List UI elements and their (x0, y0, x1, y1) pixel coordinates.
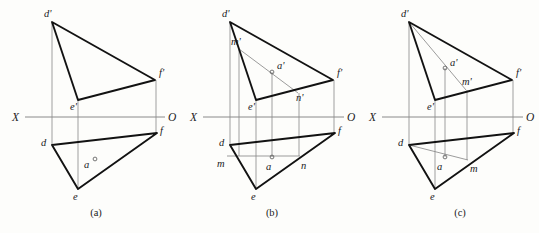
aux-point-label-mp-b: m' (231, 36, 242, 47)
panel-caption-c: (c) (454, 207, 466, 219)
vertex-label-ep-a: e' (70, 101, 78, 112)
vertex-label-ep-b: e' (248, 101, 256, 112)
axis-label-o-b: O (347, 111, 356, 123)
panel-caption-a: (a) (90, 207, 102, 219)
render-layer: XOad'f'e'dfe(a)XOa'am'n'mnd'f'e'dfe(b)XO… (11, 8, 535, 219)
vertex-label-e-a: e (73, 191, 78, 202)
point-a-top-label-a: a (84, 159, 89, 170)
aux-point-label-mp-c: m' (462, 76, 473, 87)
axis-label-x-b: X (189, 111, 198, 123)
aux-line-c-dm-top (409, 145, 468, 160)
vertex-label-fp-b: f' (337, 67, 343, 78)
vertex-label-fp-a: f' (159, 67, 165, 78)
panel-c: XOa'am'md'f'e'dfe(c) (368, 8, 535, 219)
point-a-top-marker-a (93, 157, 97, 161)
vertex-label-dp-a: d' (44, 8, 52, 19)
axis-label-x-c: X (368, 111, 377, 123)
axis-label-o-c: O (526, 111, 535, 123)
vertex-label-f-a: f (160, 125, 165, 136)
aux-point-label-n-b: n (301, 160, 306, 171)
vertex-label-d-a: d (41, 137, 47, 148)
triangle-front-a (52, 22, 155, 100)
panel-a: XOad'f'e'dfe(a) (11, 8, 177, 219)
aux-line-c-dm-front (409, 22, 466, 90)
panel-caption-b: (b) (266, 207, 279, 219)
axis-label-o-a: O (168, 111, 177, 123)
aux-point-label-np-b: n' (296, 92, 304, 103)
panel-b: XOa'am'n'mnd'f'e'dfe(b) (189, 8, 356, 219)
point-a-front-label-c: a' (450, 57, 458, 68)
vertex-label-dp-c: d' (401, 8, 409, 19)
triangle-top-b (230, 133, 335, 189)
triangle-top-a (52, 133, 157, 189)
point-a-front-label-b: a' (277, 60, 285, 71)
triangle-front-c (409, 22, 512, 100)
vertex-label-f-c: f (517, 125, 522, 136)
aux-point-label-m-b: m (217, 158, 225, 169)
point-a-top-label-c: a (437, 161, 442, 172)
vertex-label-f-b: f (338, 125, 343, 136)
vertex-label-e-b: e (251, 191, 256, 202)
axis-label-x-a: X (11, 111, 20, 123)
figure-canvas: XOad'f'e'dfe(a)XOa'am'n'mnd'f'e'dfe(b)XO… (0, 0, 539, 233)
triangle-top-c (409, 133, 514, 189)
vertex-label-fp-c: f' (516, 67, 522, 78)
vertex-label-ep-c: e' (427, 101, 435, 112)
vertex-label-e-c: e (430, 191, 435, 202)
aux-point-label-m-c: m (470, 163, 478, 174)
vertex-label-d-c: d (398, 137, 404, 148)
geometry-figure: XOad'f'e'dfe(a)XOa'am'n'mnd'f'e'dfe(b)XO… (0, 0, 539, 233)
vertex-label-d-b: d (219, 137, 225, 148)
point-a-top-label-b: a (266, 161, 271, 172)
vertex-label-dp-b: d' (222, 8, 230, 19)
